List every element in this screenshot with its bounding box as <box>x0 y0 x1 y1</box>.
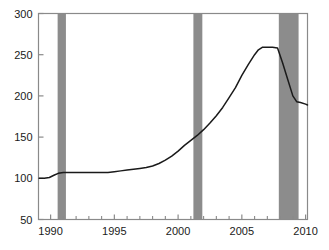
recession-band-recession-2007-2009 <box>279 14 299 220</box>
y-tick-label: 200 <box>14 90 32 102</box>
line-chart: 50100150200250300 19901995200020052010 <box>0 0 329 250</box>
y-tick-label: 50 <box>20 214 32 226</box>
y-tick-label: 300 <box>14 8 32 20</box>
x-axis-tick-labels: 19901995200020052010 <box>38 225 317 237</box>
y-axis-tick-labels: 50100150200250300 <box>14 8 32 226</box>
x-tick-label: 1995 <box>102 225 126 237</box>
plot-frame <box>39 14 308 220</box>
x-tick-label: 2005 <box>230 225 254 237</box>
y-tick-label: 100 <box>14 172 32 184</box>
y-tick-label: 150 <box>14 131 32 143</box>
recession-band-recession-2001 <box>193 14 202 220</box>
data-series-line <box>39 47 307 178</box>
y-tick-label: 250 <box>14 49 32 61</box>
series-index <box>39 47 307 178</box>
recession-band-recession-1990-1991 <box>58 14 66 220</box>
x-tick-label: 2010 <box>293 225 317 237</box>
shaded-recession-bands <box>58 14 299 220</box>
y-axis-ticks <box>39 14 44 220</box>
x-tick-label: 2000 <box>166 225 190 237</box>
x-tick-label: 1990 <box>38 225 62 237</box>
x-axis-ticks <box>51 215 306 220</box>
chart-container: 50100150200250300 19901995200020052010 <box>0 0 329 250</box>
